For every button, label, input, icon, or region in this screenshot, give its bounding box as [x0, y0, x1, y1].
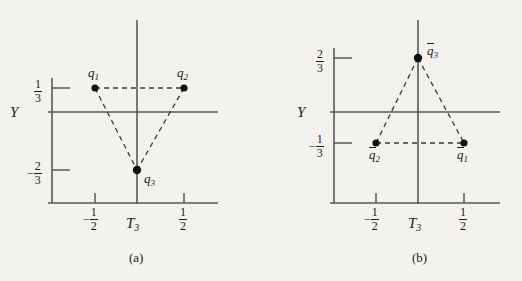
panel-b-point-label-q1bar-overbar	[457, 147, 464, 148]
panel-a-point-label-q3: q3	[144, 172, 155, 188]
panel-a-xtick-label-minus-half: − 1 2	[83, 206, 98, 232]
panel-b-point-label-q3bar-subscript: 3	[434, 50, 439, 60]
panel-a-xtick-label-minus-half-sign: −	[83, 213, 90, 225]
panel-a-x-axis-label-subscript: 3	[134, 222, 139, 233]
panel-b-point-q3bar	[414, 54, 422, 62]
panel-a-ytick-label-one-third: 1 3	[34, 78, 42, 104]
panel-a-ytick-minus-two-thirds-denominator: 3	[34, 173, 42, 187]
panel-b-edge-q3bar-q2bar	[376, 58, 418, 143]
panel-b-point-label-q2bar-overbar-wrap: q	[369, 148, 376, 161]
panel-a-xtick-minus-half-denominator: 2	[90, 219, 98, 233]
panel-a-xtick-half-numerator: 1	[179, 206, 187, 219]
panel-a-ytick-label-one-third-frac: 1 3	[34, 78, 42, 104]
panel-b-ytick-two-thirds-denominator: 3	[316, 61, 324, 75]
panel-b-point-label-q3bar-overbar	[427, 43, 434, 44]
panel-a-point-q2	[180, 84, 187, 91]
panel-a-xtick-label-half-frac: 1 2	[179, 206, 187, 232]
panel-a-point-label-q3-subscript: 3	[151, 178, 156, 188]
panel-a-ytick-minus-two-thirds-numerator: 2	[34, 160, 42, 173]
panel-a-ytick-label-minus-two-thirds: − 2 3	[27, 160, 42, 186]
panel-a-xtick-label-half: 1 2	[179, 206, 187, 232]
panel-a-plot	[0, 0, 261, 281]
panel-b-edge-q3bar-q1bar	[418, 58, 464, 143]
panel-b-xtick-half-numerator: 1	[459, 206, 467, 219]
panel-b-y-axis-label: Y	[297, 105, 305, 120]
panel-a-point-label-q2: q2	[177, 66, 188, 82]
panel-b-point-label-q1bar-subscript: 1	[464, 154, 469, 164]
panel-a-edge-q1-q3	[95, 88, 137, 170]
panel-b-x-axis-label: T3	[408, 216, 421, 233]
panel-b-point-label-q2bar: q2	[369, 148, 380, 164]
panel-a-point-label-q1-subscript: 1	[95, 72, 100, 82]
panel-b-point-label-q1bar-overbar-wrap: q	[457, 148, 464, 161]
panel-b-caption: (b)	[412, 250, 427, 266]
panel-a-caption: (a)	[129, 250, 143, 266]
quark-weak-isospin-hypercharge-figure: Y T3 1 3 − 2 3 − 1 2	[0, 0, 522, 281]
panel-b-ytick-label-minus-one-third: − 1 3	[309, 133, 324, 159]
panel-b-point-label-q3bar: q3	[427, 44, 438, 60]
panel-b-point-label-q2bar-subscript: 2	[376, 154, 381, 164]
panel-b-xtick-half-denominator: 2	[459, 219, 467, 233]
panel-a-point-label-q1: q1	[88, 66, 99, 82]
panel-b-x-axis-label-subscript: 3	[416, 222, 421, 233]
panel-b-point-q2bar	[372, 139, 379, 146]
panel-b-point-label-q1bar: q1	[457, 148, 468, 164]
panel-b-plot	[261, 0, 522, 281]
panel-b-xtick-minus-half-denominator: 2	[371, 219, 379, 233]
panel-b-ytick-minus-one-third-numerator: 1	[316, 133, 324, 146]
panel-a-point-label-q2-subscript: 2	[184, 72, 189, 82]
panel-a-xtick-half-denominator: 2	[179, 219, 187, 233]
panel-a-ytick-label-minus-two-thirds-frac: 2 3	[34, 160, 42, 186]
panel-a-y-axis-label: Y	[10, 105, 18, 120]
panel-a-ytick-one-third-numerator: 1	[34, 78, 42, 91]
panel-b-point-label-q1bar-symbol: q	[457, 147, 464, 162]
panel-a-ytick-label-minus-two-thirds-sign: −	[27, 167, 34, 179]
panel-b-point-label-q2bar-symbol: q	[369, 147, 376, 162]
panel-b-ytick-label-minus-one-third-frac: 1 3	[316, 133, 324, 159]
panel-b-xtick-label-minus-half: − 1 2	[364, 206, 379, 232]
panel-b-xtick-label-half: 1 2	[459, 206, 467, 232]
panel-b-point-label-q2bar-overbar	[369, 147, 376, 148]
panel-a-xtick-minus-half-numerator: 1	[90, 206, 98, 219]
panel-b-xtick-label-minus-half-frac: 1 2	[371, 206, 379, 232]
panel-a-xtick-label-minus-half-frac: 1 2	[90, 206, 98, 232]
panel-b-xtick-label-minus-half-sign: −	[364, 213, 371, 225]
panel-b-xtick-minus-half-numerator: 1	[371, 206, 379, 219]
panel-b-point-label-q3bar-overbar-wrap: q	[427, 44, 434, 57]
panel-b-ytick-label-two-thirds: 2 3	[316, 48, 324, 74]
panel-b-point-label-q3bar-symbol: q	[427, 43, 434, 58]
panel-a-edge-q2-q3	[137, 88, 184, 170]
panel-b-ytick-label-minus-one-third-sign: −	[309, 140, 316, 152]
panel-b-ytick-two-thirds-numerator: 2	[316, 48, 324, 61]
panel-a-point-q1	[91, 84, 98, 91]
panel-b: Y T3 2 3 − 1 3 − 1 2	[261, 0, 522, 281]
panel-a-x-axis-label: T3	[126, 216, 139, 233]
panel-a: Y T3 1 3 − 2 3 − 1 2	[0, 0, 261, 281]
panel-a-ytick-one-third-denominator: 3	[34, 91, 42, 105]
panel-a-point-q3	[133, 166, 141, 174]
panel-b-xtick-label-half-frac: 1 2	[459, 206, 467, 232]
panel-b-ytick-minus-one-third-denominator: 3	[316, 146, 324, 160]
panel-b-point-q1bar	[460, 139, 467, 146]
panel-b-ytick-label-two-thirds-frac: 2 3	[316, 48, 324, 74]
